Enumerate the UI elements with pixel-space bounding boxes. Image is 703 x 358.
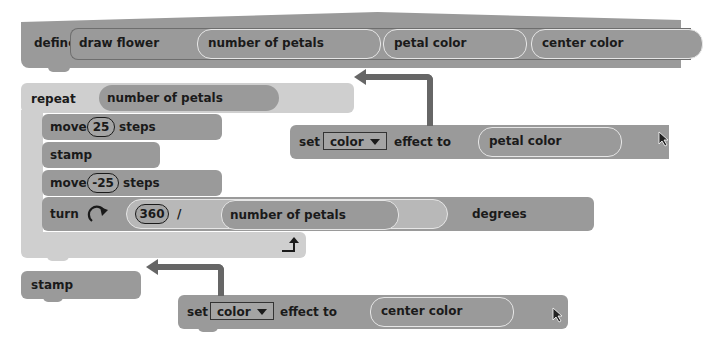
move-back-block[interactable]: move -25 steps — [42, 170, 222, 196]
repeat-count-reporter[interactable]: number of petals — [99, 85, 279, 111]
param-center-color[interactable]: center color — [531, 29, 703, 59]
divide-operator[interactable]: 360 / number of petals — [126, 199, 448, 229]
arrow-left-icon — [146, 259, 158, 275]
arrow-connector — [156, 264, 224, 270]
repeat-keyword: repeat — [31, 92, 76, 106]
stamp-block[interactable]: stamp — [42, 142, 160, 168]
divisor-reporter[interactable]: number of petals — [221, 200, 399, 230]
param-petal-color[interactable]: petal color — [383, 29, 527, 59]
set-center-color-effect-block[interactable]: set color effect to center color — [178, 295, 568, 329]
mouse-cursor-icon — [552, 307, 564, 323]
petal-color-reporter[interactable]: petal color — [478, 127, 622, 157]
rotate-clockwise-icon — [86, 203, 112, 225]
param-number-of-petals[interactable]: number of petals — [197, 29, 381, 59]
stamp-block-2-notch — [43, 297, 63, 302]
arrow-connector — [427, 74, 433, 126]
mouse-cursor-icon — [658, 131, 670, 147]
set-petal-color-effect-block[interactable]: set color effect to petal color — [290, 125, 669, 159]
move-block[interactable]: move 25 steps — [42, 114, 222, 140]
repeat-block-notch — [47, 255, 69, 261]
effect-dropdown[interactable]: color — [323, 132, 387, 150]
effect-dropdown-2[interactable]: color — [210, 302, 274, 320]
center-color-reporter[interactable]: center color — [370, 297, 514, 327]
dividend-input[interactable]: 360 — [135, 204, 169, 224]
stamp-block-2[interactable]: stamp — [21, 271, 141, 299]
arrow-connector — [364, 74, 433, 80]
loop-arrow-icon — [280, 235, 306, 255]
define-block-notch — [48, 66, 70, 72]
repeat-block-arm — [21, 110, 43, 250]
define-prototype[interactable]: draw flower number of petals petal color… — [70, 28, 691, 60]
arrow-left-icon — [354, 69, 366, 85]
move-back-steps-input[interactable]: -25 — [87, 173, 119, 193]
move-steps-input[interactable]: 25 — [87, 117, 115, 137]
turn-block[interactable]: turn 360 / number of petals degrees — [42, 197, 594, 231]
set-center-notch — [198, 327, 218, 332]
chevron-down-icon — [370, 139, 380, 145]
chevron-down-icon — [257, 309, 267, 315]
custom-block-name: draw flower — [79, 36, 159, 50]
